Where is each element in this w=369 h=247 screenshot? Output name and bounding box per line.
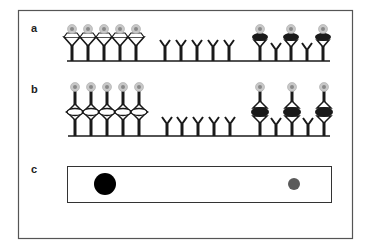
antigen-open <box>96 37 112 46</box>
sandwich-complex-filled <box>315 83 333 137</box>
antibody-arms <box>160 40 170 47</box>
antibody-arms <box>192 40 202 47</box>
antibody-antigen-filled <box>252 25 268 62</box>
label-core <box>89 85 93 89</box>
antigen-open <box>112 37 128 46</box>
antibody-arms <box>193 117 203 124</box>
antibody-antigen-open <box>128 25 144 62</box>
capture-antibody <box>208 40 218 61</box>
antibody-arms <box>209 117 219 124</box>
label-core <box>70 27 74 31</box>
capture-antibody <box>193 117 203 136</box>
capture-arms <box>253 116 267 123</box>
panel-b <box>67 83 333 137</box>
detection-arms <box>253 101 267 108</box>
capture-antibody <box>177 117 187 136</box>
antigen-open <box>99 109 115 116</box>
antibody-arms <box>302 43 312 50</box>
antigen-open <box>67 109 83 116</box>
antibody-arms <box>271 43 281 50</box>
antibody-arms <box>176 40 186 47</box>
antibody-antigen-filled <box>283 25 299 62</box>
label-core <box>86 27 90 31</box>
label-core <box>105 85 109 89</box>
antibody-arms <box>317 40 329 47</box>
panel-label-c: c <box>31 163 37 175</box>
antigen-filled <box>283 33 299 41</box>
antigen-filled <box>315 107 333 117</box>
detection-arms <box>317 101 331 108</box>
detection-arms <box>285 101 299 108</box>
panel-a <box>64 25 331 62</box>
antibody-arms <box>208 40 218 47</box>
label-core <box>258 85 262 89</box>
antibody-antigen-open <box>112 25 128 62</box>
diagram-figure: a b c <box>0 0 369 247</box>
capture-antibody <box>160 40 170 61</box>
capture-antibody <box>225 117 235 136</box>
label-core <box>73 85 77 89</box>
antibody-arms <box>177 117 187 124</box>
weak-spot <box>288 178 300 190</box>
antigen-open <box>83 109 99 116</box>
antigen-open <box>128 37 144 46</box>
capture-antibody <box>162 117 172 136</box>
capture-antibody <box>209 117 219 136</box>
strong-spot <box>94 173 116 195</box>
antibody-arms <box>254 40 266 47</box>
sandwich-complex-open <box>67 83 83 137</box>
sandwich-complex-open <box>115 83 131 137</box>
sandwich-complex-filled <box>283 83 301 137</box>
antibody-antigen-filled <box>315 25 331 62</box>
capture-antibody <box>303 118 313 136</box>
antigen-open <box>64 37 80 46</box>
antigen-open <box>115 109 131 116</box>
antibody-antigen-open <box>64 25 80 62</box>
label-core <box>289 27 293 31</box>
capture-antibody <box>192 40 202 61</box>
capture-antibody <box>302 43 312 61</box>
label-core <box>137 85 141 89</box>
capture-arms <box>317 116 331 123</box>
panel-label-a: a <box>31 22 38 34</box>
capture-antibody <box>224 40 234 61</box>
label-core <box>102 27 106 31</box>
label-core <box>134 27 138 31</box>
antibody-arms <box>271 118 281 125</box>
antibody-arms <box>285 40 297 47</box>
capture-antibody <box>176 40 186 61</box>
antibody-antigen-open <box>96 25 112 62</box>
sandwich-complex-filled <box>251 83 269 137</box>
panel-label-b: b <box>31 83 38 95</box>
antigen-filled <box>283 107 301 117</box>
sandwich-complex-open <box>83 83 99 137</box>
antibody-antigen-open <box>80 25 96 62</box>
antibody-arms <box>225 117 235 124</box>
label-core <box>321 27 325 31</box>
antibody-arms <box>303 118 313 125</box>
capture-antibody <box>271 118 281 136</box>
capture-antibody <box>271 43 281 61</box>
label-core <box>322 85 326 89</box>
antibody-arms <box>162 117 172 124</box>
label-core <box>121 85 125 89</box>
label-core <box>118 27 122 31</box>
sandwich-complex-open <box>99 83 115 137</box>
antigen-filled <box>251 107 269 117</box>
label-core <box>258 27 262 31</box>
sandwich-complex-open <box>131 83 147 137</box>
capture-arms <box>285 116 299 123</box>
antigen-open <box>80 37 96 46</box>
label-core <box>290 85 294 89</box>
antibody-arms <box>224 40 234 47</box>
panel-c <box>68 167 332 203</box>
antigen-filled <box>252 33 268 41</box>
antigen-open <box>131 109 147 116</box>
antigen-filled <box>315 33 331 41</box>
